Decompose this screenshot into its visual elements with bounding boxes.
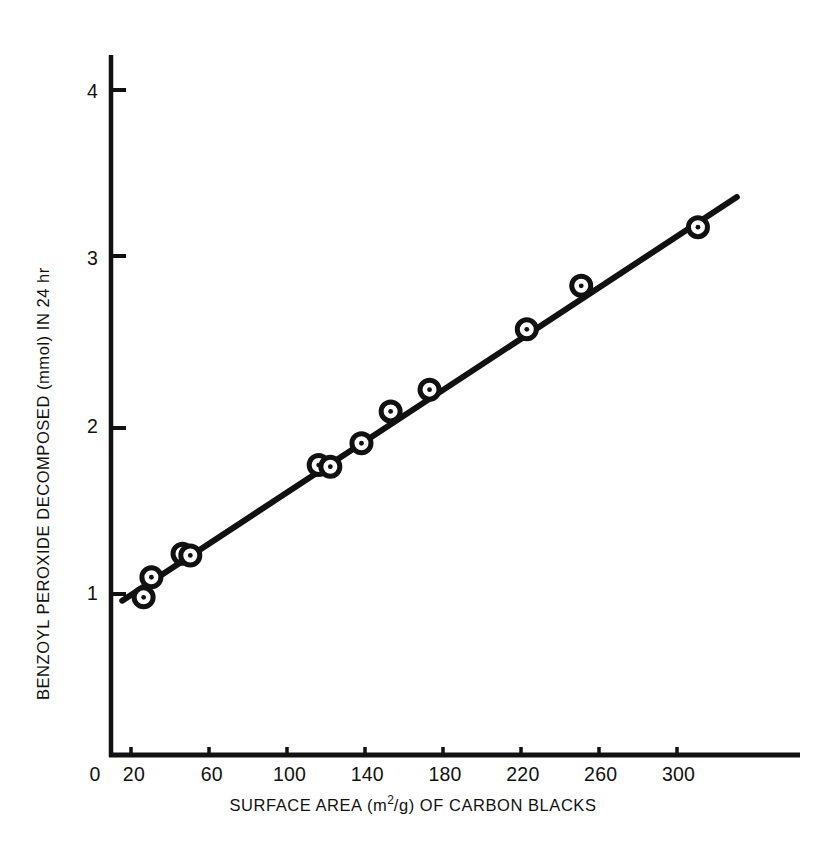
x-tick-label-100: 100 (273, 765, 306, 785)
data-point-marker (517, 320, 536, 339)
data-point-marker (688, 218, 707, 237)
x-axis-title-suffix: /g) OF CARBON BLACKS (394, 796, 597, 814)
x-tick-label-180: 180 (429, 765, 462, 785)
x-tick-label-20: 20 (123, 765, 145, 785)
marker-center-dot (359, 441, 364, 446)
plot-canvas (0, 0, 826, 855)
data-point-marker (142, 568, 161, 587)
y-axis-title: BENZOYL PEROXIDE DECOMPOSED (mmol) IN 24… (34, 100, 64, 700)
x-tick-label-140: 140 (351, 765, 384, 785)
x-axis-title-superscript: 2 (387, 793, 394, 807)
data-point-marker (420, 380, 439, 399)
marker-center-dot (388, 409, 393, 414)
x-tick-label-300: 300 (662, 765, 695, 785)
marker-center-dot (579, 283, 584, 288)
x-tick-label-60: 60 (201, 765, 223, 785)
y-tick-label-4: 4 (76, 82, 98, 102)
data-point-marker (134, 588, 153, 607)
data-point-marker (181, 546, 200, 565)
figure-page: 02060100140180220260300 1234 SURFACE ARE… (0, 0, 826, 855)
scatter-chart-figure: 02060100140180220260300 1234 SURFACE ARE… (0, 0, 826, 855)
x-axis-title-prefix: SURFACE AREA (m (230, 796, 388, 814)
y-tick-label-2: 2 (76, 417, 98, 437)
data-point-marker (572, 276, 591, 295)
x-tick-label-220: 220 (506, 765, 539, 785)
y-tick-label-3: 3 (76, 249, 98, 269)
x-axis-title: SURFACE AREA (m2/g) OF CARBON BLACKS (0, 793, 826, 815)
y-tick-label-1: 1 (76, 584, 98, 604)
marker-center-dot (188, 553, 193, 558)
marker-center-dot (524, 327, 529, 332)
marker-center-dot (149, 575, 154, 580)
x-tick-label-260: 260 (584, 765, 617, 785)
marker-center-dot (427, 387, 432, 392)
marker-center-dot (696, 225, 701, 230)
marker-center-dot (141, 595, 146, 600)
marker-center-dot (328, 464, 333, 469)
data-point-marker (352, 434, 371, 453)
x-tick-label-0: 0 (89, 765, 100, 785)
data-point-marker (381, 402, 400, 421)
data-point-marker (321, 457, 340, 476)
